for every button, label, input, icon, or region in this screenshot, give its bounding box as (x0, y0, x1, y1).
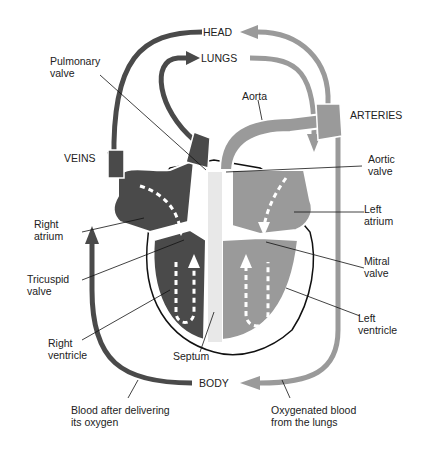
caption-deoxygenated: Blood after delivering its oxygen (71, 404, 170, 428)
label-tricuspid-valve: Tricuspid valve (27, 273, 69, 297)
label-aortic-valve: Aortic valve (368, 153, 395, 177)
label-body: BODY (199, 377, 229, 389)
label-head: HEAD (203, 26, 232, 38)
superior-vena-cava (108, 150, 124, 178)
septum (208, 172, 222, 342)
right-ventricle (153, 230, 206, 340)
label-veins: VEINS (64, 152, 96, 164)
right-atrium (114, 160, 194, 232)
arrowhead-left-body (240, 376, 260, 390)
label-left-atrium: Left atrium (364, 203, 393, 227)
caption-oxygenated: Oxygenated blood from the lungs (271, 404, 356, 428)
label-arteries: ARTERIES (350, 109, 402, 121)
arteries-trunk (316, 104, 342, 140)
arrowhead-right-lungs (186, 51, 200, 65)
aorta-arch (220, 114, 322, 170)
label-aorta: Aorta (242, 90, 267, 102)
label-right-atrium: Right atrium (34, 218, 63, 242)
arrowhead-left-head (240, 25, 258, 39)
label-septum: Septum (173, 350, 209, 362)
lungs-outgoing-arrow (161, 58, 194, 140)
head-return-arrow (114, 32, 202, 160)
leader-aorta (258, 100, 262, 120)
label-pulmonary-valve: Pulmonary valve (50, 55, 100, 79)
label-mitral-valve: Mitral valve (364, 255, 390, 279)
label-left-ventricle: Left ventricle (358, 312, 397, 336)
label-lungs: LUNGS (201, 52, 237, 64)
leader-deoxy-caption (128, 380, 138, 398)
label-right-ventricle: Right ventricle (48, 337, 87, 361)
